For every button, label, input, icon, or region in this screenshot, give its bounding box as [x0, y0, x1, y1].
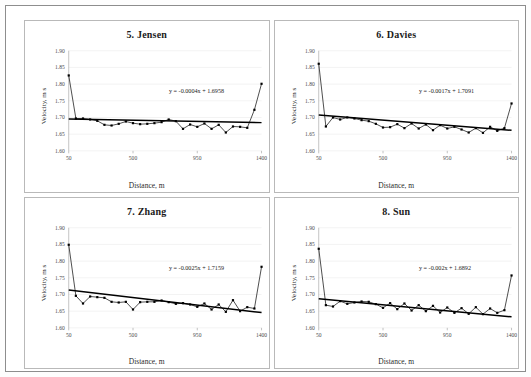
data-point-marker	[439, 311, 441, 313]
data-point-marker	[75, 294, 77, 296]
y-tick-label: 1.85	[305, 64, 315, 70]
data-point-marker	[125, 300, 127, 302]
x-tick-label: 950	[193, 155, 202, 161]
y-tick-label: 1.70	[55, 114, 65, 120]
panel-6-davies: 6. DaviesVelocity, m sDistance, m1.901.8…	[274, 20, 520, 193]
y-tick-label: 1.85	[55, 241, 65, 247]
data-point-marker	[367, 300, 369, 302]
data-point-marker	[431, 129, 433, 131]
y-tick-label: 1.80	[305, 81, 315, 87]
x-tick-label: 500	[378, 331, 387, 337]
y-tick-label: 1.60	[55, 324, 65, 330]
plot-area: 1.901.851.801.751.701.651.60505009501400…	[25, 198, 269, 369]
data-point-marker	[489, 307, 491, 309]
data-point-marker	[118, 301, 120, 303]
data-point-marker	[431, 304, 433, 306]
y-tick-label: 1.80	[55, 81, 65, 87]
data-point-marker	[510, 274, 512, 276]
data-point-marker	[317, 247, 319, 249]
figure-page: 5. JensenVelocity, m sDistance, m1.901.8…	[0, 0, 531, 377]
data-point-marker	[260, 83, 262, 85]
data-point-marker	[460, 128, 462, 130]
data-point-marker	[196, 305, 198, 307]
data-point-marker	[103, 124, 105, 126]
data-point-marker	[225, 131, 227, 133]
y-tick-label: 1.65	[305, 308, 315, 314]
x-tick-label: 1400	[505, 155, 516, 161]
data-point-marker	[403, 302, 405, 304]
data-point-marker	[496, 311, 498, 313]
data-point-marker	[132, 122, 134, 124]
x-tick-label: 500	[129, 331, 138, 337]
data-point-marker	[196, 126, 198, 128]
data-point-marker	[381, 306, 383, 308]
data-point-marker	[503, 127, 505, 129]
y-tick-label: 1.75	[55, 274, 65, 280]
y-tick-label: 1.65	[305, 131, 315, 137]
data-point-marker	[210, 308, 212, 310]
data-point-marker	[68, 243, 70, 245]
y-tick-label: 1.60	[305, 148, 315, 154]
data-point-marker	[182, 128, 184, 130]
y-tick-label: 1.90	[305, 224, 315, 230]
trendline-equation: y = -0.0025x + 1.7159	[169, 264, 224, 270]
data-point-marker	[339, 118, 341, 120]
data-point-marker	[246, 306, 248, 308]
x-tick-label: 1400	[505, 331, 516, 337]
data-point-marker	[153, 122, 155, 124]
y-tick-label: 1.90	[55, 224, 65, 230]
trendline-equation: y = -0.0017x + 1.7091	[418, 88, 473, 94]
x-tick-label: 50	[315, 331, 321, 337]
trendline-equation: y = -0.002x + 1.6892	[418, 264, 470, 270]
data-point-marker	[203, 302, 205, 304]
data-point-marker	[203, 122, 205, 124]
x-tick-label: 500	[378, 155, 387, 161]
data-point-marker	[417, 127, 419, 129]
data-point-marker	[139, 301, 141, 303]
data-point-marker	[389, 126, 391, 128]
data-point-marker	[446, 306, 448, 308]
data-point-marker	[324, 125, 326, 127]
y-tick-label: 1.60	[305, 324, 315, 330]
plot-area: 1.901.851.801.751.701.651.60505009501400…	[275, 198, 519, 369]
data-point-marker	[346, 302, 348, 304]
y-tick-label: 1.65	[55, 308, 65, 314]
y-tick-label: 1.85	[305, 241, 315, 247]
panel-grid: 5. JensenVelocity, m sDistance, m1.901.8…	[24, 20, 519, 369]
data-point-marker	[396, 308, 398, 310]
data-point-marker	[110, 300, 112, 302]
data-point-marker	[389, 302, 391, 304]
data-point-marker	[118, 123, 120, 125]
data-point-marker	[503, 309, 505, 311]
y-tick-label: 1.75	[55, 98, 65, 104]
data-point-marker	[410, 309, 412, 311]
data-point-marker	[210, 128, 212, 130]
x-tick-label: 1400	[256, 155, 267, 161]
data-point-marker	[496, 130, 498, 132]
data-point-marker	[246, 127, 248, 129]
data-point-marker	[139, 123, 141, 125]
data-point-marker	[424, 310, 426, 312]
data-point-marker	[189, 123, 191, 125]
data-point-marker	[96, 296, 98, 298]
data-point-marker	[360, 119, 362, 121]
trendline-equation: y = -0.0004x + 1.6958	[169, 88, 224, 94]
x-tick-label: 950	[443, 155, 452, 161]
panel-7-zhang: 7. ZhangVelocity, m sDistance, m1.901.85…	[24, 197, 270, 370]
x-tick-label: 500	[129, 155, 138, 161]
data-point-marker	[396, 123, 398, 125]
x-tick-label: 950	[193, 331, 202, 337]
y-tick-label: 1.60	[55, 148, 65, 154]
data-point-marker	[417, 304, 419, 306]
data-point-marker	[446, 127, 448, 129]
y-tick-label: 1.70	[55, 291, 65, 297]
y-tick-label: 1.75	[305, 274, 315, 280]
data-point-marker	[218, 124, 220, 126]
data-point-marker	[374, 123, 376, 125]
data-point-marker	[146, 123, 148, 125]
data-point-marker	[239, 126, 241, 128]
data-point-marker	[68, 74, 70, 76]
page-border: 5. JensenVelocity, m sDistance, m1.901.8…	[5, 5, 526, 372]
data-point-marker	[481, 132, 483, 134]
linear-trendline	[318, 298, 511, 316]
